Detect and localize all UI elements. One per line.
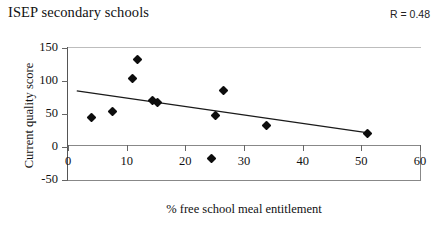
data-point [211, 110, 221, 120]
data-point [128, 73, 138, 83]
y-tick-label--50: -50 [14, 173, 58, 186]
y-tick-label-150: 150 [14, 41, 58, 54]
x-tick-20 [185, 145, 186, 151]
y-tick-label-50: 50 [14, 107, 58, 120]
data-point [362, 129, 372, 139]
x-tick-label-20: 20 [165, 155, 205, 168]
x-tick-60 [420, 145, 421, 151]
y-tick-150 [62, 48, 68, 49]
plot-bottom-border [68, 180, 421, 181]
data-point [261, 120, 271, 130]
x-tick-label-40: 40 [283, 155, 323, 168]
x-tick-50 [361, 145, 362, 151]
y-tick--50 [62, 180, 68, 181]
x-tick-0 [68, 145, 69, 151]
x-tick-10 [127, 145, 128, 151]
x-tick-30 [244, 145, 245, 151]
data-point [107, 106, 117, 116]
x-tick-label-50: 50 [341, 155, 381, 168]
data-point [219, 86, 229, 96]
y-tick-100 [62, 81, 68, 82]
scatter-chart: ISEP secondary schools R = 0.48 Current … [0, 0, 440, 227]
data-point [207, 154, 217, 164]
y-tick-label-0: 0 [14, 140, 58, 153]
x-axis-label: % free school meal entitlement [68, 202, 420, 217]
y-tick-label-100: 100 [14, 74, 58, 87]
data-point [87, 112, 97, 122]
data-point [132, 54, 142, 64]
x-tick-label-30: 30 [224, 155, 264, 168]
x-tick-label-60: 60 [400, 155, 440, 168]
chart-title: ISEP secondary schools [8, 4, 149, 21]
y-tick-50 [62, 114, 68, 115]
correlation-annotation: R = 0.48 [390, 8, 430, 20]
plot-top-border [68, 47, 421, 48]
x-tick-label-0: 0 [48, 155, 88, 168]
x-tick-label-10: 10 [107, 155, 147, 168]
x-tick-40 [303, 145, 304, 151]
